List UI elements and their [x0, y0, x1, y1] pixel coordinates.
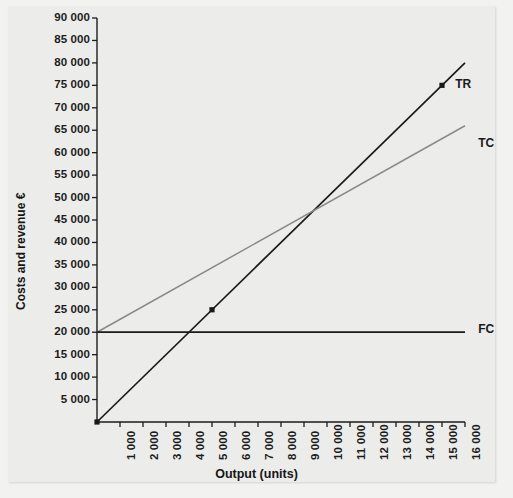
y-tick-label: 75 000	[20, 78, 90, 90]
x-tick-label: 13 000	[401, 424, 413, 460]
y-tick-label: 90 000	[20, 11, 90, 23]
series-line-tc	[97, 126, 465, 332]
y-tick-label: 45 000	[20, 213, 90, 225]
y-axis-title: Costs and revenue €	[14, 130, 28, 310]
y-tick-label: 25 000	[20, 303, 90, 315]
y-tick-label: 10 000	[20, 370, 90, 382]
series-label-tc: TC	[478, 136, 494, 150]
x-tick-label: 9 000	[309, 431, 321, 460]
y-tick-label: 50 000	[20, 191, 90, 203]
marker-tr	[439, 83, 444, 88]
y-tick-label: 35 000	[20, 258, 90, 270]
y-tick-label: 65 000	[20, 123, 90, 135]
x-tick-label: 14 000	[424, 424, 436, 460]
x-tick-label: 1 000	[125, 431, 137, 460]
chart-series	[97, 63, 465, 422]
y-tick-label: 15 000	[20, 348, 90, 360]
chart-plot-svg	[0, 0, 513, 498]
marker-tr	[209, 307, 214, 312]
x-tick-label: 7 000	[263, 431, 275, 460]
y-tick-label: 30 000	[20, 280, 90, 292]
y-tick-label: 70 000	[20, 101, 90, 113]
y-tick-label: 80 000	[20, 56, 90, 68]
series-line-tr	[97, 63, 465, 422]
x-tick-label: 11 000	[355, 425, 367, 460]
y-tick-label: 5 000	[20, 393, 90, 405]
chart-axes	[92, 18, 465, 427]
chart-page: 5 00010 00015 00020 00025 00030 00035 00…	[0, 0, 513, 498]
x-tick-label: 3 000	[171, 431, 183, 460]
y-tick-label: 20 000	[20, 325, 90, 337]
x-tick-label: 8 000	[286, 431, 298, 460]
y-tick-label: 85 000	[20, 33, 90, 45]
x-tick-label: 5 000	[217, 431, 229, 460]
series-label-tr: TR	[455, 77, 471, 91]
x-tick-label: 12 000	[378, 424, 390, 460]
x-tick-label: 16 000	[470, 424, 482, 460]
marker-tr	[94, 419, 99, 424]
breakeven-chart: 5 00010 00015 00020 00025 00030 00035 00…	[0, 0, 513, 498]
x-tick-label: 15 000	[447, 424, 459, 460]
y-tick-label: 40 000	[20, 235, 90, 247]
x-tick-label: 6 000	[240, 431, 252, 460]
x-tick-label: 10 000	[332, 424, 344, 460]
x-tick-label: 4 000	[194, 431, 206, 460]
x-tick-label: 2 000	[148, 431, 160, 460]
x-axis-title: Output (units)	[0, 467, 513, 481]
y-tick-label: 55 000	[20, 168, 90, 180]
y-tick-label: 60 000	[20, 146, 90, 158]
series-label-fc: FC	[478, 322, 494, 336]
